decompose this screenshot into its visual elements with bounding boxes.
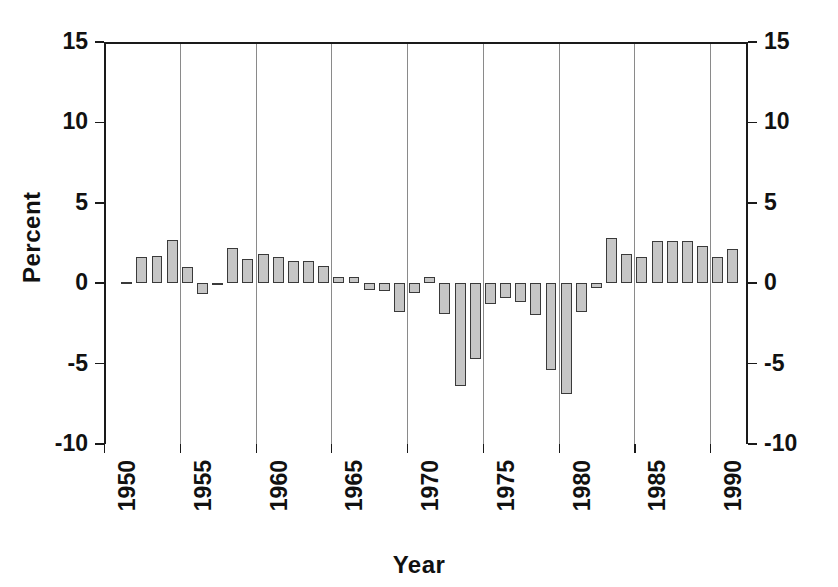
x-tick-label-1965: 1965	[343, 460, 366, 511]
x-tick-1965	[331, 444, 332, 453]
bar-1953	[152, 256, 163, 283]
y-tick-left--10	[95, 443, 104, 445]
bar-1991	[727, 249, 738, 283]
gridline-1980	[559, 42, 560, 444]
bar-1983	[606, 238, 617, 283]
x-tick-1950	[104, 444, 105, 453]
bar-1979	[546, 283, 557, 370]
x-tick-1970	[407, 444, 408, 453]
y-tick-left--5	[95, 363, 104, 365]
y-tick-label-right--5: -5	[764, 352, 784, 375]
bar-1980	[561, 283, 572, 394]
y-tick-label-right--10: -10	[764, 432, 797, 455]
bar-1955	[182, 267, 193, 283]
gridline-1970	[407, 42, 408, 444]
gridline-1990	[710, 42, 711, 444]
gridline-1965	[331, 42, 332, 444]
y-axis-title: Percent	[18, 191, 46, 283]
y-tick-right--5	[748, 363, 757, 365]
x-tick-1975	[483, 444, 484, 453]
bar-1971	[424, 277, 435, 283]
x-tick-label-1950: 1950	[116, 460, 139, 511]
bar-1967	[364, 283, 375, 289]
y-tick-label-left-5: 5	[75, 191, 88, 214]
bar-1981	[576, 283, 587, 312]
right-axis-line	[746, 42, 748, 444]
zero-baseline	[104, 42, 748, 44]
x-tick-label-1975: 1975	[495, 460, 518, 511]
bar-1968	[379, 283, 390, 291]
bar-1965	[333, 277, 344, 283]
bar-1988	[682, 241, 693, 283]
y-tick-label-left--10: -10	[55, 432, 88, 455]
bar-1976	[500, 283, 511, 297]
left-axis-line	[104, 42, 106, 444]
x-tick-1985	[634, 444, 635, 453]
y-tick-label-right-5: 5	[764, 191, 777, 214]
bar-1970	[409, 283, 420, 293]
bar-1958	[227, 248, 238, 283]
bar-1984	[621, 254, 632, 283]
x-tick-label-1970: 1970	[419, 460, 442, 511]
bar-1961	[273, 257, 284, 283]
y-tick-left-0	[95, 282, 104, 284]
y-tick-left-10	[95, 122, 104, 124]
bar-1964	[318, 266, 329, 284]
bar-1963	[303, 261, 314, 284]
x-tick-1955	[180, 444, 181, 453]
bar-1987	[667, 241, 678, 283]
bar-1956	[197, 283, 208, 294]
bar-1951	[121, 282, 132, 284]
x-tick-label-1990: 1990	[722, 460, 745, 511]
y-tick-label-right-0: 0	[764, 271, 777, 294]
bar-1974	[470, 283, 481, 359]
gridline-1975	[483, 42, 484, 444]
gridline-1985	[634, 42, 635, 444]
bar-1962	[288, 261, 299, 284]
bar-1977	[515, 283, 526, 302]
bar-1969	[394, 283, 405, 312]
bar-1990	[712, 257, 723, 283]
y-tick-left-15	[95, 41, 104, 43]
x-tick-1980	[559, 444, 560, 453]
y-tick-label-left-10: 10	[62, 110, 88, 133]
x-tick-1960	[256, 444, 257, 453]
y-tick-label-left-0: 0	[75, 271, 88, 294]
y-tick-label-right-15: 15	[764, 30, 790, 53]
y-tick-right-0	[748, 282, 757, 284]
bar-1978	[530, 283, 541, 315]
gridline-1960	[256, 42, 257, 444]
bar-1975	[485, 283, 496, 304]
bar-1960	[258, 254, 269, 283]
bar-1959	[242, 259, 253, 283]
bar-1972	[439, 283, 450, 314]
bar-1986	[652, 241, 663, 283]
x-tick-label-1985: 1985	[646, 460, 669, 511]
bar-1973	[455, 283, 466, 386]
x-tick-label-1980: 1980	[571, 460, 594, 511]
bar-1954	[167, 240, 178, 283]
y-tick-left-5	[95, 202, 104, 204]
gridline-1955	[180, 42, 181, 444]
y-tick-right-5	[748, 202, 757, 204]
y-tick-right--10	[748, 443, 757, 445]
bar-1966	[349, 277, 360, 283]
x-tick-1990	[710, 444, 711, 453]
y-tick-label-left--5: -5	[68, 352, 88, 375]
x-tick-label-1960: 1960	[268, 460, 291, 511]
bar-1952	[136, 257, 147, 283]
y-tick-right-10	[748, 122, 757, 124]
bar-1957	[212, 283, 223, 285]
bar-1982	[591, 283, 602, 288]
chart-figure: Percent Year 151050-5-10 151050-5-10 195…	[0, 0, 838, 587]
bar-1989	[697, 246, 708, 283]
y-tick-right-15	[748, 41, 757, 43]
y-tick-label-right-10: 10	[764, 110, 790, 133]
y-tick-label-left-15: 15	[62, 30, 88, 53]
x-tick-label-1955: 1955	[192, 460, 215, 511]
x-axis-title: Year	[0, 551, 838, 579]
bar-1985	[636, 257, 647, 283]
plot-area	[104, 42, 748, 444]
